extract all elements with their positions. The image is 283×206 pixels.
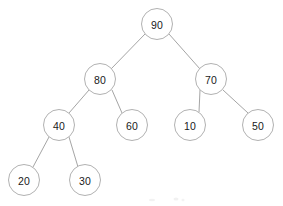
binary-tree-diagram: 908070406010502030 bbox=[0, 0, 283, 206]
node-label: 30 bbox=[79, 175, 91, 187]
tree-edge bbox=[69, 137, 78, 167]
node-label: 20 bbox=[18, 175, 30, 187]
tree-node[interactable]: 90 bbox=[142, 9, 173, 40]
node-label: 70 bbox=[205, 74, 217, 86]
tree-node[interactable]: 60 bbox=[117, 110, 148, 141]
scan-artifact-group bbox=[149, 198, 185, 202]
tree-node[interactable]: 10 bbox=[175, 110, 206, 141]
tree-edge bbox=[111, 34, 145, 69]
tree-node[interactable]: 40 bbox=[44, 110, 75, 141]
tree-edge bbox=[199, 90, 200, 112]
node-layer: 908070406010502030 bbox=[9, 9, 274, 196]
tree-edge bbox=[223, 90, 248, 113]
node-label: 10 bbox=[184, 120, 196, 132]
node-label: 90 bbox=[151, 19, 163, 31]
tree-edge bbox=[112, 90, 122, 113]
node-label: 40 bbox=[53, 120, 65, 132]
tree-node[interactable]: 50 bbox=[243, 110, 274, 141]
tree-edge bbox=[169, 34, 200, 69]
edge-layer bbox=[33, 34, 248, 167]
tree-svg-canvas: 908070406010502030 bbox=[0, 0, 283, 206]
node-label: 60 bbox=[126, 120, 138, 132]
tree-node[interactable]: 70 bbox=[196, 64, 227, 95]
node-label: 80 bbox=[94, 74, 106, 86]
node-label: 50 bbox=[252, 120, 264, 132]
tree-node[interactable]: 20 bbox=[9, 165, 40, 196]
tree-edge bbox=[69, 90, 89, 113]
tree-node[interactable]: 80 bbox=[85, 64, 116, 95]
tree-node[interactable]: 30 bbox=[70, 165, 101, 196]
tree-edge bbox=[33, 137, 49, 167]
